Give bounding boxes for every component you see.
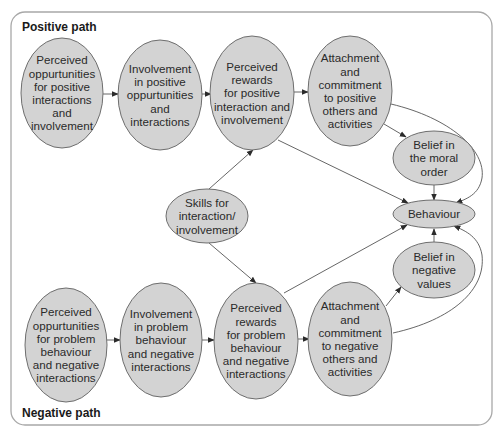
- negative-path-label: Negative path: [22, 406, 101, 420]
- node-behaviour: [393, 200, 475, 228]
- node-neg-involvement: [120, 283, 202, 397]
- node-neg-opportunities: [25, 288, 107, 402]
- node-neg-rewards: [214, 283, 298, 399]
- node-pos-opportunities: [21, 38, 103, 148]
- node-pos-rewards: [210, 36, 294, 150]
- node-belief-negative: [393, 242, 475, 298]
- node-pos-involvement: [118, 40, 202, 150]
- diagram-canvas: [0, 0, 499, 434]
- node-belief-moral: [393, 131, 475, 185]
- node-neg-attachment: [308, 282, 392, 396]
- node-pos-attachment: [308, 36, 392, 146]
- node-skills: [166, 189, 248, 243]
- positive-path-label: Positive path: [22, 20, 97, 34]
